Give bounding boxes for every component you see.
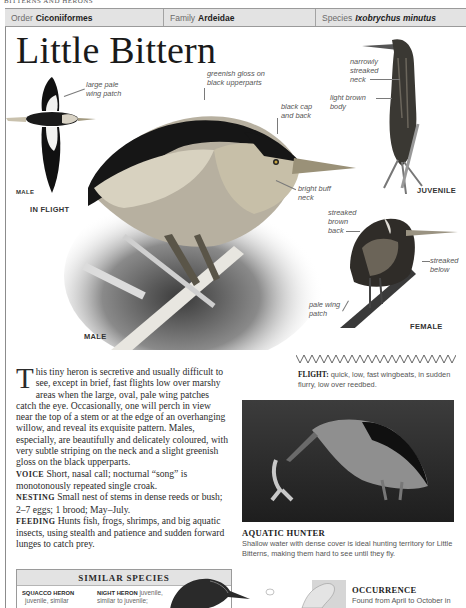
annotation-line: greenish gloss on (207, 69, 265, 78)
similar-species-text: juvenile, (139, 589, 162, 596)
occurrence-text: Found from April to October in (352, 596, 466, 606)
photo-caption: Shallow water with dense cover is ideal … (242, 539, 460, 559)
annotation-black-cap: black cap and back (281, 102, 312, 120)
intro-paragraph: This tiny heron is secretive and usually… (16, 366, 228, 468)
annotation-line: bright buff (298, 184, 331, 193)
male-caption: MALE (84, 332, 106, 341)
fact-key: FEEDING (16, 517, 55, 526)
annotation-line: black upperparts (207, 78, 265, 87)
fact-key: NESTING (16, 493, 55, 502)
flight-pattern-zigzag-icon (296, 353, 456, 365)
similar-species-name: SQUACCO HERON (22, 590, 74, 596)
taxon-order: Order Ciconiiformes (5, 9, 164, 26)
annotation-line: pale wing (309, 300, 340, 309)
annotation-streaked-below: streaked below (430, 256, 458, 274)
annotation-line: narrowly (350, 57, 378, 66)
night-heron-illustration (170, 575, 250, 608)
intro-text: his tiny heron is secretive and usually … (16, 366, 228, 467)
species-description: This tiny heron is secretive and usually… (16, 366, 228, 550)
page-title: Little Bittern (16, 28, 216, 72)
photo-caption-title: AQUATIC HUNTER (242, 528, 325, 538)
annotation-line: and back (281, 111, 312, 120)
annotation-line: streaked (350, 66, 378, 75)
annotation-line: light brown (330, 93, 366, 102)
similar-species-text: juvenile, similar (22, 597, 69, 604)
similar-squacco-heron: SQUACCO HERON juvenile, similar (22, 589, 74, 605)
drop-cap: T (16, 367, 34, 389)
fact-nesting: NESTING Small nest of stems in dense ree… (16, 491, 228, 515)
family-value: Ardeidae (198, 13, 234, 23)
annotation-line: streaked (430, 256, 458, 265)
taxon-species: Species Ixobrychus minutus (316, 9, 466, 26)
species-label: Species (322, 13, 352, 23)
order-label: Order (11, 13, 33, 23)
flight-label: FLIGHT: (298, 370, 329, 379)
aquatic-hunter-photo (242, 400, 454, 522)
fact-voice: VOICE Short, nasal call; nocturnal “song… (16, 468, 228, 492)
leader-line (422, 261, 430, 262)
leader-line (370, 79, 400, 80)
leader-line (376, 98, 392, 99)
order-value: Ciconiiformes (36, 13, 93, 23)
annotation-light-brown-body: light brown body (330, 93, 366, 111)
annotation-bright-buff-neck: bright buff neck (298, 184, 331, 202)
annotation-line: neck (298, 193, 331, 202)
in-flight-sex-label: MALE (16, 189, 34, 195)
leader-line (277, 118, 278, 134)
occurrence-map (262, 580, 348, 608)
similar-species-name: NIGHT HERON (97, 590, 138, 596)
annotation-greenish-gloss: greenish gloss on black upperparts (207, 69, 265, 87)
occurrence-title: OCCURRENCE (352, 585, 417, 595)
fact-key: VOICE (16, 470, 44, 479)
fact-feeding: FEEDING Hunts fish, frogs, shrimps, and … (16, 515, 228, 550)
female-caption: FEMALE (410, 322, 443, 331)
species-value: Ixobrychus minutus (355, 13, 436, 23)
family-label: Family (170, 13, 195, 23)
annotation-line: patch (309, 309, 340, 318)
annotation-line: body (330, 102, 366, 111)
annotation-line: streaked (328, 208, 356, 217)
annotation-line: brown (328, 217, 356, 226)
annotation-line: large pale (86, 80, 121, 89)
similar-species-text: similar to juvenile; (97, 597, 148, 604)
taxon-family: Family Ardeidae (164, 9, 316, 26)
juvenile-caption: JUVENILE (417, 186, 456, 195)
annotation-pale-wing-patch: pale wing patch (309, 300, 340, 318)
taxonomy-bar: Order Ciconiiformes Family Ardeidae Spec… (5, 8, 466, 27)
flight-description: FLIGHT: quick, low, fast wingbeats, in s… (298, 370, 458, 390)
leader-line (204, 88, 205, 100)
similar-night-heron: NIGHT HERON juvenile, similar to juvenil… (97, 589, 163, 605)
leader-line (346, 231, 360, 232)
annotation-line: below (430, 265, 458, 274)
running-head: BITTERNS AND HERONS (4, 0, 93, 5)
annotation-line: black cap (281, 102, 312, 111)
